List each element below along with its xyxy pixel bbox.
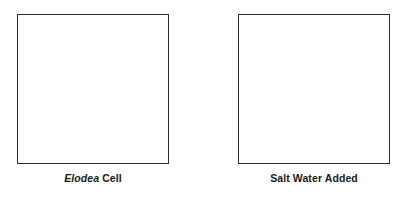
- panel-elodea-cell: [17, 14, 169, 164]
- caption-salt-water-label: Salt Water Added: [270, 172, 358, 184]
- caption-species-name: Elodea: [64, 172, 99, 184]
- cell-box-elodea: [17, 14, 169, 164]
- cell-box-salt-water: [238, 14, 390, 164]
- panel-salt-water-added: [238, 14, 390, 164]
- caption-salt-water-added: Salt Water Added: [238, 166, 390, 190]
- caption-elodea-cell: Elodea Cell: [17, 166, 169, 190]
- diagram-root: Elodea Cell Salt Water Added: [0, 0, 410, 205]
- caption-elodea-suffix: Cell: [99, 172, 122, 184]
